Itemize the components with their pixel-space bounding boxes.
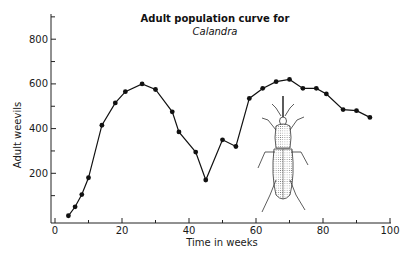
y-axis: 200400600800 <box>29 14 56 223</box>
data-point <box>368 115 373 120</box>
data-point <box>153 87 158 92</box>
data-point <box>79 192 84 197</box>
y-tick-label: 600 <box>29 78 48 89</box>
data-point <box>341 107 346 112</box>
x-tick-label: 40 <box>183 225 196 236</box>
x-axis-label: Time in weeks <box>185 237 257 248</box>
data-series <box>66 77 372 218</box>
data-point <box>220 137 225 142</box>
series-line <box>68 79 370 215</box>
data-point <box>274 79 279 84</box>
data-point <box>86 175 91 180</box>
y-tick-label: 800 <box>29 34 48 45</box>
chart-subtitle: Calandra <box>193 26 238 37</box>
data-point <box>140 82 145 87</box>
y-axis-label: Adult weevils <box>12 102 23 168</box>
x-tick-label: 0 <box>52 225 58 236</box>
data-point <box>177 130 182 135</box>
data-point <box>100 123 105 128</box>
x-tick-label: 100 <box>380 225 399 236</box>
data-point <box>203 178 208 183</box>
data-point <box>123 89 128 94</box>
data-point <box>354 108 359 113</box>
data-point <box>193 150 198 155</box>
population-chart: Adult population curve for Calandra 2004… <box>0 0 407 256</box>
data-point <box>287 77 292 82</box>
x-axis: 020406080100 <box>51 218 400 236</box>
data-point <box>324 92 329 97</box>
chart-title: Adult population curve for <box>141 13 290 24</box>
weevil-illustration <box>258 96 308 212</box>
y-tick-label: 200 <box>29 168 48 179</box>
data-point <box>66 213 71 218</box>
x-tick-label: 20 <box>116 225 129 236</box>
x-tick-label: 60 <box>250 225 263 236</box>
data-point <box>234 144 239 149</box>
data-point <box>314 86 319 91</box>
data-point <box>301 86 306 91</box>
x-tick-label: 80 <box>317 225 330 236</box>
data-point <box>260 86 265 91</box>
data-point <box>73 204 78 209</box>
data-point <box>113 100 118 105</box>
data-point <box>170 109 175 114</box>
data-point <box>247 96 252 101</box>
y-tick-label: 400 <box>29 123 48 134</box>
